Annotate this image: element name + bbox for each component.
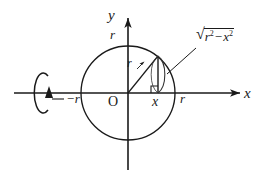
radicand-exponent-2: 2 bbox=[229, 29, 233, 38]
disk-arc-left bbox=[151, 56, 158, 93]
x-tick-label-negative-r: −r bbox=[66, 92, 80, 105]
foot-point-label-x: x bbox=[152, 95, 158, 109]
sqrt-radicand: r2−x2 bbox=[204, 28, 234, 43]
rotation-marker-arrowhead bbox=[45, 86, 53, 98]
height-expression-label: √ r2−x2 bbox=[196, 27, 234, 42]
origin-label: O bbox=[108, 95, 118, 109]
x-tick-label-r: r bbox=[180, 92, 185, 105]
sqrt-label-leader bbox=[167, 48, 196, 74]
radius-label-r: r bbox=[127, 57, 132, 69]
y-tick-label-r: r bbox=[110, 28, 115, 41]
x-axis-label: x bbox=[244, 86, 251, 101]
math-figure: y x r r −r O x r √ r2−x2 bbox=[0, 0, 271, 179]
radius-label-arrowhead bbox=[140, 62, 145, 65]
radicand-operator: − bbox=[214, 29, 223, 44]
y-axis-label: y bbox=[108, 8, 115, 23]
